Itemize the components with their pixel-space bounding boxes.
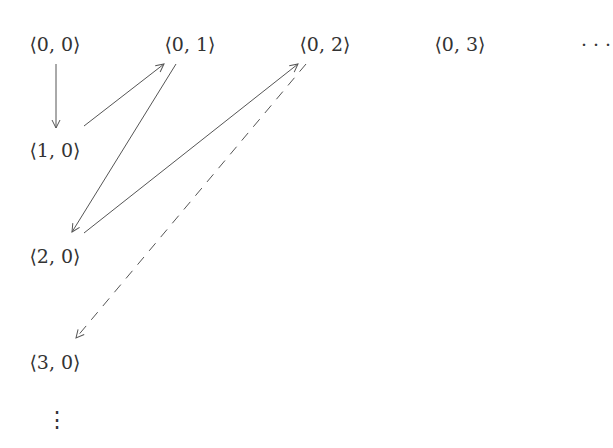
edges-layer	[0, 0, 613, 448]
node-3-0: ⟨3, 0⟩	[29, 351, 80, 373]
node-2-0: ⟨2, 0⟩	[29, 245, 80, 267]
node-0-3: ⟨0, 3⟩	[434, 33, 485, 55]
edge-20-02	[84, 64, 298, 233]
node-0-0: ⟨0, 0⟩	[29, 33, 80, 55]
node-1-0: ⟨1, 0⟩	[29, 139, 80, 161]
edge-10-01	[84, 64, 164, 126]
node-0-2: ⟨0, 2⟩	[299, 33, 350, 55]
vertical-ellipsis: ⋮	[46, 407, 68, 432]
node-0-1: ⟨0, 1⟩	[164, 33, 215, 55]
horizontal-ellipsis: · · ·	[581, 33, 611, 55]
edge-01-20	[72, 64, 176, 232]
